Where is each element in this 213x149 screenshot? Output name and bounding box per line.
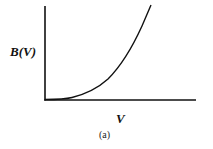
y-axis-label: B(V) <box>10 44 36 60</box>
x-axis-label: V <box>116 111 125 127</box>
plot-area <box>0 0 213 149</box>
curve-b-of-v <box>45 5 151 100</box>
figure-panel-a: B(V) V (a) <box>0 0 213 149</box>
figure-caption: (a) <box>99 129 110 140</box>
